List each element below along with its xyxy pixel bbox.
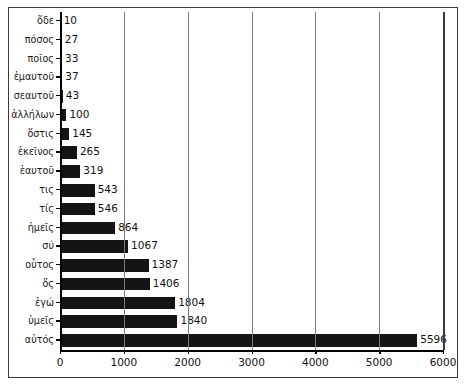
category-label: ἑαυτοῦ: [20, 164, 54, 177]
category-label: τις: [39, 183, 54, 196]
bar: [60, 297, 175, 310]
bar: [60, 278, 150, 291]
bar-value-label: 27: [65, 33, 78, 46]
bar-value-label: 1406: [153, 277, 180, 290]
category-label: σεαυτοῦ: [14, 89, 54, 102]
category-label: αὐτός: [25, 333, 54, 346]
x-tick-label: 3000: [238, 356, 265, 368]
bar-value-label: 319: [83, 164, 103, 177]
bar-value-label: 37: [65, 70, 78, 83]
bar-value-label: 1387: [152, 258, 179, 271]
gridline-0: [60, 12, 62, 350]
bar-value-label: 145: [72, 127, 92, 140]
gridline-3000: [252, 12, 253, 350]
category-label: ὅδε: [37, 14, 54, 27]
x-tick-label: 2000: [174, 356, 201, 368]
category-label: ποῖος: [28, 52, 54, 65]
gridline-6000: [443, 12, 445, 350]
bar-value-label: 546: [98, 202, 118, 215]
x-tick-mark: [252, 350, 253, 354]
bar-value-label: 1804: [178, 296, 205, 309]
bar-value-label: 864: [118, 221, 138, 234]
bar-value-label: 100: [69, 108, 89, 121]
category-label: ἀλλήλων: [11, 108, 54, 121]
bar-value-label: 33: [65, 52, 78, 65]
bar-value-label: 43: [66, 89, 79, 102]
category-label: ἐκεῖνος: [18, 145, 54, 158]
category-label: τίς: [39, 202, 54, 215]
category-label: ὅς: [42, 277, 54, 290]
bar: [60, 315, 177, 328]
gridline-2000: [188, 12, 189, 350]
bar-value-label: 1840: [180, 314, 207, 327]
gridline-4000: [315, 12, 316, 350]
bar-chart-figure: ὅδε10πόσος27ποῖος33ἐμαυτοῦ37σεαυτοῦ43ἀλλ…: [0, 0, 470, 387]
x-tick-label: 0: [57, 356, 64, 368]
category-label: ἐμαυτοῦ: [14, 70, 54, 83]
bar-value-label: 1067: [131, 239, 158, 252]
x-tick-mark: [124, 350, 125, 354]
category-label: ἡμεῖς: [28, 221, 54, 234]
x-tick-mark: [443, 350, 444, 354]
category-label: σύ: [42, 239, 54, 252]
gridline-5000: [379, 12, 380, 350]
category-label: ὅστις: [27, 127, 54, 140]
bar: [60, 222, 115, 235]
plot-area: ὅδε10πόσος27ποῖος33ἐμαυτοῦ37σεαυτοῦ43ἀλλ…: [60, 12, 443, 350]
x-tick-label: 1000: [110, 356, 137, 368]
bar: [60, 259, 149, 272]
bar: [60, 146, 77, 159]
bar: [60, 334, 417, 347]
x-tick-label: 5000: [366, 356, 393, 368]
x-tick-label: 6000: [430, 356, 457, 368]
bar-value-label: 543: [98, 183, 118, 196]
category-label: ἐγώ: [35, 296, 54, 309]
x-tick-mark: [315, 350, 316, 354]
bar: [60, 203, 95, 216]
gridline-1000: [124, 12, 125, 350]
x-tick-label: 4000: [302, 356, 329, 368]
bar-value-label: 10: [64, 14, 77, 27]
category-label: οὗτος: [25, 258, 54, 271]
bar: [60, 240, 128, 253]
category-label: ὑμεῖς: [28, 314, 54, 327]
bar: [60, 184, 95, 197]
x-tick-mark: [188, 350, 189, 354]
x-tick-mark: [379, 350, 380, 354]
x-tick-mark: [60, 350, 61, 354]
bar-value-label: 265: [80, 145, 100, 158]
bar: [60, 165, 80, 178]
category-label: πόσος: [25, 33, 54, 46]
